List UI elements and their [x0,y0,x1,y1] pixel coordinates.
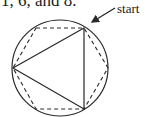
circle [12,20,108,116]
start-arrow-icon [92,8,115,22]
dashed-hexagon [13,28,108,109]
circle-polygon-diagram [0,0,145,117]
triangle [13,28,84,109]
